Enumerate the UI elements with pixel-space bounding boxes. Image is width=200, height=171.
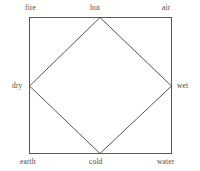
label-hot: hot bbox=[90, 3, 100, 12]
label-air: air bbox=[162, 3, 170, 12]
label-fire: fire bbox=[25, 3, 36, 12]
label-dry: dry bbox=[12, 81, 22, 90]
diagram-figure bbox=[0, 0, 200, 171]
qualities-diamond-outline bbox=[30, 18, 172, 154]
label-earth: earth bbox=[20, 157, 36, 166]
label-cold: cold bbox=[89, 157, 103, 166]
label-water: water bbox=[157, 157, 174, 166]
elements-square-outline bbox=[30, 18, 172, 154]
four-elements-diagram: fire hot air dry wet earth cold water bbox=[0, 0, 200, 171]
label-wet: wet bbox=[177, 81, 188, 90]
